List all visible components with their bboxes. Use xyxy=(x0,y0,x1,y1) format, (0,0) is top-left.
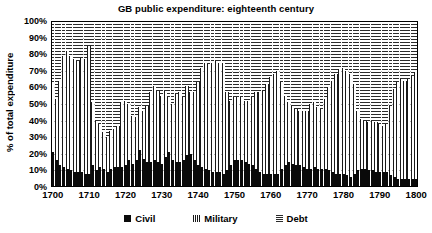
x-axis-tick-label: 1740 xyxy=(188,189,209,200)
legend-label: Debt xyxy=(287,213,308,224)
legend-label: Military xyxy=(204,213,237,224)
x-axis-tick-label: 1790 xyxy=(369,189,390,200)
chart-legend: CivilMilitaryDebt xyxy=(0,210,432,226)
legend-item-civil[interactable]: Civil xyxy=(124,213,155,224)
y-axis-tick-label: 60% xyxy=(29,82,47,92)
legend-label: Civil xyxy=(135,213,155,224)
x-axis-tick-label: 1730 xyxy=(151,189,172,200)
y-axis-tick-label: 40% xyxy=(29,116,47,126)
bar-segment-civil xyxy=(414,179,417,187)
y-axis-tick-label: 10% xyxy=(29,165,47,175)
legend-swatch-icon xyxy=(193,215,200,222)
legend-swatch-icon xyxy=(276,215,283,222)
y-axis-title: % of total expenditure xyxy=(2,27,16,177)
y-axis-tick-labels: 0%10%20%30%40%50%60%70%80%90%100% xyxy=(16,16,49,188)
y-axis-tick-label: 30% xyxy=(29,132,47,142)
y-axis-tick-label: 80% xyxy=(29,49,47,59)
y-axis-tick-label: 90% xyxy=(29,33,47,43)
chart-title: GB public expenditure: eighteenth centur… xyxy=(0,3,432,14)
x-axis-tick-label: 1720 xyxy=(115,189,136,200)
bar-segment-debt xyxy=(414,21,417,72)
legend-item-military[interactable]: Military xyxy=(193,213,237,224)
y-axis-tick-label: 70% xyxy=(29,66,47,76)
y-axis-tick-label: 100% xyxy=(24,16,47,26)
plot-area xyxy=(51,21,418,187)
x-axis-tick-label: 1760 xyxy=(260,189,281,200)
x-axis-tick-label: 1780 xyxy=(333,189,354,200)
x-axis-tick-labels: 1700171017201730174017501760177017801790… xyxy=(51,189,418,205)
x-axis-tick-label: 1700 xyxy=(42,189,63,200)
bar-column xyxy=(414,21,417,187)
x-axis-tick-label: 1800 xyxy=(406,189,427,200)
x-axis-tick-label: 1750 xyxy=(224,189,245,200)
chart-container: GB public expenditure: eighteenth centur… xyxy=(0,0,432,233)
legend-swatch-icon xyxy=(124,215,131,222)
y-axis-tick-label: 50% xyxy=(29,99,47,109)
x-axis-tick-label: 1710 xyxy=(79,189,100,200)
x-axis-tick-label: 1770 xyxy=(297,189,318,200)
legend-item-debt[interactable]: Debt xyxy=(276,213,308,224)
bar-segment-military xyxy=(414,72,417,178)
y-axis-tick-label: 20% xyxy=(29,149,47,159)
